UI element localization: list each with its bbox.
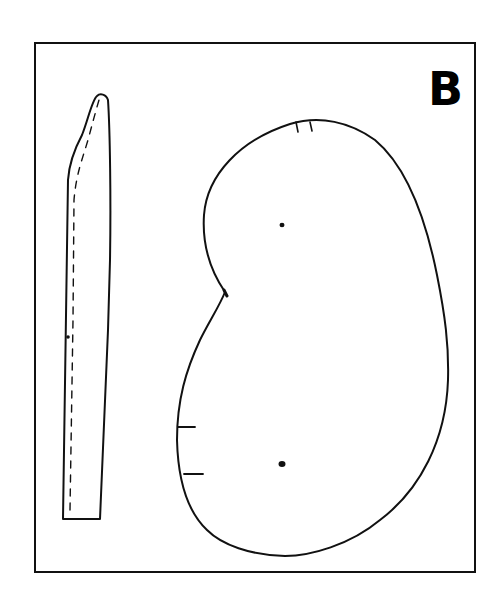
strip-piece	[63, 94, 110, 519]
panel-label: B	[428, 66, 463, 112]
strip-stitch-line	[70, 100, 99, 510]
strip-mark-dot	[66, 335, 70, 339]
lower-dot	[279, 461, 286, 467]
kidney-piece	[177, 120, 448, 556]
strip-outline	[63, 94, 110, 519]
pattern-drawing	[0, 0, 498, 602]
top-notch-1	[296, 122, 298, 132]
top-notch-2	[310, 122, 312, 131]
upper-dot	[280, 223, 285, 228]
kidney-outline	[177, 120, 448, 556]
